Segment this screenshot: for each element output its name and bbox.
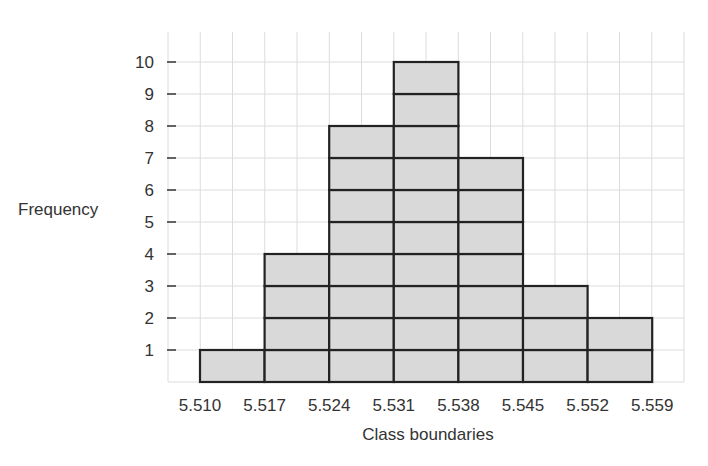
- histogram-block: [523, 318, 588, 350]
- y-tick-label: 4: [145, 245, 154, 264]
- histogram-block: [394, 350, 459, 382]
- histogram-block: [329, 254, 394, 286]
- y-axis-ticks: 12345678910: [135, 53, 176, 360]
- histogram-block: [329, 158, 394, 190]
- histogram-block: [394, 254, 459, 286]
- x-axis-ticks: 5.5105.5175.5245.5315.5385.5455.5525.559: [179, 396, 674, 415]
- x-tick-label: 5.552: [566, 396, 609, 415]
- histogram-block: [588, 318, 653, 350]
- histogram-block: [394, 222, 459, 254]
- histogram-block: [265, 350, 330, 382]
- y-tick-label: 9: [145, 85, 154, 104]
- histogram-block: [458, 158, 523, 190]
- histogram-block: [588, 350, 653, 382]
- x-tick-label: 5.531: [373, 396, 416, 415]
- histogram-block: [458, 190, 523, 222]
- histogram-block: [394, 190, 459, 222]
- x-axis-label: Class boundaries: [362, 425, 493, 444]
- x-tick-label: 5.517: [243, 396, 286, 415]
- histogram-block: [458, 318, 523, 350]
- histogram-block: [329, 286, 394, 318]
- histogram-block: [523, 350, 588, 382]
- histogram-block: [394, 318, 459, 350]
- histogram-block: [394, 126, 459, 158]
- x-tick-label: 5.538: [437, 396, 480, 415]
- histogram-block: [329, 126, 394, 158]
- histogram-block: [329, 318, 394, 350]
- y-tick-label: 8: [145, 117, 154, 136]
- x-tick-label: 5.524: [308, 396, 351, 415]
- y-tick-label: 3: [145, 277, 154, 296]
- x-tick-label: 5.545: [502, 396, 545, 415]
- y-tick-label: 1: [145, 341, 154, 360]
- x-tick-label: 5.559: [631, 396, 674, 415]
- histogram-block: [265, 318, 330, 350]
- y-axis-label: Frequency: [18, 200, 99, 219]
- y-tick-label: 5: [145, 213, 154, 232]
- histogram-block: [458, 254, 523, 286]
- histogram-block: [394, 158, 459, 190]
- histogram-block: [265, 286, 330, 318]
- histogram-block: [394, 62, 459, 94]
- y-tick-label: 6: [145, 181, 154, 200]
- x-tick-label: 5.510: [179, 396, 222, 415]
- histogram-chart: 12345678910 5.5105.5175.5245.5315.5385.5…: [0, 0, 708, 466]
- histogram-block: [394, 94, 459, 126]
- histogram-block: [329, 350, 394, 382]
- histogram-block: [458, 350, 523, 382]
- histogram-block: [394, 286, 459, 318]
- histogram-block: [458, 222, 523, 254]
- histogram-block: [329, 222, 394, 254]
- histogram-block: [200, 350, 265, 382]
- y-tick-label: 10: [135, 53, 154, 72]
- y-tick-label: 7: [145, 149, 154, 168]
- y-tick-label: 2: [145, 309, 154, 328]
- histogram-block: [523, 286, 588, 318]
- histogram-block: [265, 254, 330, 286]
- histogram-block: [458, 286, 523, 318]
- histogram-block: [329, 190, 394, 222]
